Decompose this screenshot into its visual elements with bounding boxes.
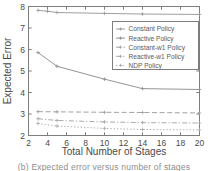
legend-label-4[interactable]: Reactive-w1 Policy bbox=[129, 53, 185, 61]
y-tick-label: 4 bbox=[20, 88, 25, 98]
y-tick-label: 5 bbox=[20, 66, 25, 76]
y-tick-label: 8 bbox=[20, 2, 25, 12]
x-tick-label: 20 bbox=[195, 138, 205, 148]
legend-label-5[interactable]: NDP Policy bbox=[129, 62, 163, 70]
chart-legend[interactable]: Constant PolicyReactive PolicyConstant-w… bbox=[113, 22, 199, 70]
x-axis-label: Total Number of Stages bbox=[62, 146, 167, 157]
y-tick-label: 2 bbox=[20, 131, 25, 141]
x-tick-label: 18 bbox=[176, 138, 186, 148]
legend-label-2[interactable]: Reactive Policy bbox=[129, 35, 175, 43]
figure-caption: (b) Expected error versus number of stag… bbox=[0, 161, 208, 171]
y-tick-label: 7 bbox=[20, 23, 25, 33]
expected-error-line-chart: 2345678 2468101214161820 Expected Error … bbox=[0, 0, 208, 171]
y-tick-label: 3 bbox=[20, 109, 25, 119]
y-axis-label: Expected Error bbox=[2, 37, 13, 104]
x-tick-label: 4 bbox=[45, 138, 50, 148]
x-tick-label: 2 bbox=[26, 138, 31, 148]
legend-label-1[interactable]: Constant Policy bbox=[129, 25, 176, 33]
legend-label-3[interactable]: Constant-w1 Policy bbox=[129, 44, 186, 52]
figure-panel: 2345678 2468101214161820 Expected Error … bbox=[0, 0, 208, 171]
y-tick-label: 6 bbox=[20, 45, 25, 55]
